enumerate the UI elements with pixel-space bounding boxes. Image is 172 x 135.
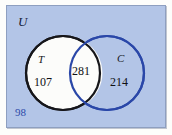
intersection-count: 281: [72, 65, 90, 77]
universal-set-label: U: [18, 15, 27, 28]
set-t-label: T: [38, 54, 44, 65]
set-c-label: C: [117, 53, 124, 64]
set-c-only-count: 214: [110, 76, 128, 88]
outside-sets-count: 98: [15, 107, 26, 118]
venn-diagram-figure: U T C 107 281 214 98: [0, 0, 172, 135]
set-t-only-count: 107: [34, 76, 52, 88]
